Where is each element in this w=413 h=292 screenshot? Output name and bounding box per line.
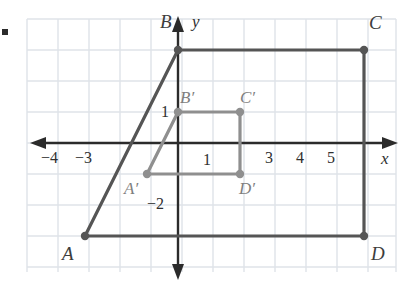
vertex-label-C-prime: C′ — [240, 89, 255, 106]
vertex-A — [81, 232, 89, 240]
vertex-label-D: D — [371, 244, 385, 263]
x-tick-label--3: −3 — [75, 150, 92, 166]
vertex-label-A-prime: A′ — [124, 180, 138, 197]
x-tick-label-3: 3 — [265, 150, 273, 166]
figure-canvas: B C A D B′ C′ A′ D′ y x −4 −3 1 3 4 5 1 … — [0, 0, 413, 292]
x-tick-label-5: 5 — [327, 150, 335, 166]
y-tick-label--2: −2 — [147, 196, 164, 212]
y-axis-label: y — [192, 13, 200, 30]
vertex-B — [174, 46, 182, 54]
x-tick-label-1: 1 — [203, 152, 211, 168]
vertex-label-A: A — [62, 244, 74, 263]
vertex-label-C: C — [369, 13, 382, 32]
vertex-label-D-prime: D′ — [239, 180, 255, 197]
x-axis-label: x — [381, 150, 389, 167]
vertex-C-prime — [236, 108, 244, 116]
vertex-label-B-prime: B′ — [180, 89, 194, 106]
y-tick-label-1: 1 — [161, 104, 169, 120]
vertex-label-B: B — [160, 12, 172, 31]
vertex-D-prime — [236, 170, 244, 178]
vertex-C — [360, 46, 368, 54]
x-axis — [30, 137, 398, 149]
vertex-B-prime — [174, 108, 182, 116]
x-tick-label-4: 4 — [296, 150, 304, 166]
x-tick-label--4: −4 — [41, 150, 58, 166]
vertex-D — [360, 232, 368, 240]
vertex-A-prime — [143, 170, 151, 178]
